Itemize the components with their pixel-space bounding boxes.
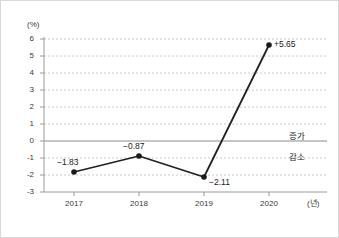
x-tick-label-2017: 2017 xyxy=(54,199,94,208)
y-tick-label-minus-1: -1 xyxy=(14,153,34,162)
data-label-2019: −2.11 xyxy=(209,177,230,187)
y-tick-label-1: 1 xyxy=(14,119,34,128)
y-tick-label-3: 3 xyxy=(14,85,34,94)
y-tick-label-minus-3: -3 xyxy=(14,187,34,196)
gridlines xyxy=(44,39,327,175)
data-label-2020: +5.65 xyxy=(274,39,296,49)
data-point-2019 xyxy=(201,174,207,180)
y-tick-label-5: 5 xyxy=(14,51,34,60)
y-tick-label-4: 4 xyxy=(14,68,34,77)
y-tick-label-6: 6 xyxy=(14,34,34,43)
y-axis-unit-label: (%) xyxy=(27,20,39,29)
data-label-2017: −1.83 xyxy=(57,157,79,167)
data-point-2018 xyxy=(136,153,142,159)
plot-area: (%) (년) 6 5 4 3 2 1 0 -1 -2 -3 2017 2018… xyxy=(1,1,339,238)
data-point-2017 xyxy=(71,169,77,175)
y-axis-ticks xyxy=(40,39,44,192)
annotation-increase: 증가 xyxy=(289,129,305,141)
x-tick-label-2019: 2019 xyxy=(184,199,224,208)
x-tick-label-2020: 2020 xyxy=(249,199,289,208)
chart-figure: (%) (년) 6 5 4 3 2 1 0 -1 -2 -3 2017 2018… xyxy=(0,0,339,238)
annotation-decrease: 감소 xyxy=(289,150,305,162)
y-tick-label-minus-2: -2 xyxy=(14,170,34,179)
data-point-2020 xyxy=(266,42,272,48)
data-line-series xyxy=(74,45,269,177)
data-point-markers xyxy=(71,42,272,180)
x-axis-unit-label: (년) xyxy=(307,197,319,208)
y-tick-label-0: 0 xyxy=(14,136,34,145)
y-tick-label-2: 2 xyxy=(14,102,34,111)
x-axis-ticks xyxy=(74,192,269,196)
data-label-2018: −0.87 xyxy=(123,141,145,151)
x-tick-label-2018: 2018 xyxy=(119,199,159,208)
